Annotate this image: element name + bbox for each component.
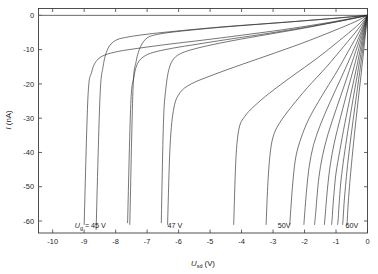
x-tick-label-8: -2	[301, 237, 308, 246]
x-tick-label-5: -5	[207, 237, 214, 246]
annotation-ug-45v: Ug = 45 V	[75, 221, 106, 231]
y-tick-label-5: -50	[23, 182, 34, 191]
annotation-50v: 50V	[278, 221, 291, 230]
x-tick-label-9: -1	[333, 237, 340, 246]
curve-ug-47	[161, 15, 367, 222]
annotation-60v: 60V	[345, 221, 358, 230]
x-axis-title: Usd (V)	[191, 259, 215, 269]
x-tick-label-6: -4	[238, 237, 245, 246]
curve-annotations-group: Ug = 45 V47 V50V60V	[75, 221, 359, 231]
x-tick-label-7: -3	[270, 237, 277, 246]
curve-ug-52	[266, 15, 367, 224]
curve-ug-49	[84, 15, 367, 224]
y-tick-label-4: -40	[23, 148, 34, 157]
y-axis-title: I (nA)	[4, 110, 13, 129]
x-axis-unit: (V)	[202, 259, 215, 268]
annotation-47v: 47 V	[168, 221, 183, 230]
output-characteristics-chart: -10-9-8-7-6-5-4-3-2-100-10-20-30-40-50-6…	[0, 0, 378, 274]
y-tick-label-2: -20	[23, 80, 34, 89]
axis-titles-group: Usd (V) I (nA)	[4, 110, 215, 269]
y-tick-label-0: 0	[30, 11, 34, 20]
curve-ug-51	[234, 15, 368, 224]
tick-marks-group	[39, 9, 368, 234]
x-tick-label-1: -9	[81, 237, 88, 246]
x-tick-label-4: -6	[175, 237, 182, 246]
curves-group	[84, 15, 367, 229]
x-tick-label-10: 0	[365, 237, 369, 246]
tick-labels-group: -10-9-8-7-6-5-4-3-2-100-10-20-30-40-50-6…	[23, 11, 369, 246]
y-tick-label-6: -60	[23, 217, 34, 226]
x-tick-label-2: -8	[112, 237, 119, 246]
y-tick-label-3: -30	[23, 114, 34, 123]
figure-container: -10-9-8-7-6-5-4-3-2-100-10-20-30-40-50-6…	[0, 0, 378, 274]
x-tick-label-3: -7	[144, 237, 151, 246]
plot-frame	[39, 9, 368, 234]
annotation-ug-45v-rest: = 45 V	[83, 221, 106, 230]
y-tick-label-1: -10	[23, 45, 34, 54]
curve-ug-54	[304, 15, 368, 224]
x-tick-label-0: -10	[47, 237, 58, 246]
y-axis-unit: (nA)	[4, 110, 13, 127]
